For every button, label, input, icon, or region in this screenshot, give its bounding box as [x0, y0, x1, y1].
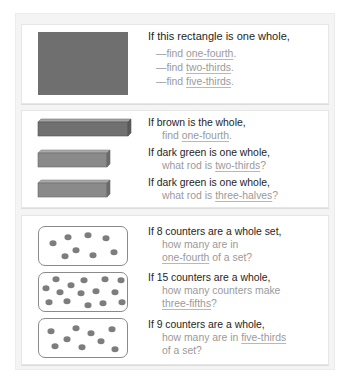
counters-row3-line2: of a set?	[148, 344, 202, 357]
term-five-thirds: five-thirds	[241, 332, 286, 343]
counter-dot	[88, 330, 95, 336]
term-two-thirds: two-thirds	[215, 160, 260, 171]
question-punct: .	[229, 130, 232, 141]
question-punct: ?	[272, 190, 278, 201]
counter-dot	[62, 253, 69, 259]
counter-dot	[78, 290, 85, 296]
counter-dot	[112, 346, 119, 352]
counter-dot	[68, 282, 75, 288]
counter-dot	[53, 276, 60, 282]
counter-dot	[65, 234, 72, 240]
question-tail: of a set?	[209, 252, 252, 263]
counter-dot	[43, 285, 50, 291]
term-one-fourth: one-fourth	[182, 130, 229, 141]
counter-dot	[52, 343, 59, 349]
counter-dot	[50, 240, 57, 246]
counter-dot	[46, 299, 53, 305]
term-three-halves: three-halves	[215, 190, 272, 201]
item-suffix: .	[233, 48, 236, 59]
term-three-fifths: three-fifths	[162, 298, 211, 309]
rods-row2-prompt: If dark green is one whole,	[148, 146, 270, 159]
counter-dot	[64, 298, 71, 304]
term-one-fourth: one-fourth	[162, 252, 209, 263]
counter-dot	[102, 276, 109, 282]
counters-row3-line1: how many are in five-thirds	[148, 331, 286, 344]
item-suffix: .	[231, 62, 234, 73]
counter-dot	[109, 326, 116, 332]
counter-dot	[85, 302, 92, 308]
brown-rod-shape	[36, 118, 132, 138]
counter-dot	[90, 252, 97, 258]
counter-dot	[111, 249, 118, 255]
panel1-item-1: —find one-fourth.	[156, 47, 236, 60]
counter-dot	[93, 288, 100, 294]
term-two-thirds: two-thirds	[186, 62, 231, 73]
panel1-item-2: —find two-thirds.	[156, 61, 234, 74]
counters-row2-prompt: If 15 counters are a whole,	[148, 271, 270, 284]
counters-row2-line2: three-fifths?	[148, 297, 217, 310]
item-prefix: —find	[156, 62, 186, 73]
counter-dot	[79, 344, 86, 350]
counter-dot	[57, 289, 64, 295]
question-text: what rod is	[162, 190, 215, 201]
rods-row1-question: find one-fourth.	[148, 129, 232, 142]
question-tail: ?	[211, 298, 217, 309]
gray-rectangle-shape	[38, 32, 128, 95]
counters-row3-prompt: If 9 counters are a whole,	[148, 318, 265, 331]
dark-green-rod-shape	[36, 179, 112, 199]
question-text: find	[162, 130, 182, 141]
item-suffix: .	[231, 76, 234, 87]
counter-dot	[64, 336, 71, 342]
dark-green-rod-shape	[36, 149, 112, 169]
counter-dot	[81, 277, 88, 283]
counter-dot	[98, 338, 105, 344]
counters-row1-prompt: If 8 counters are a whole set,	[148, 225, 281, 238]
rods-row3-question: what rod is three-halves?	[148, 189, 278, 202]
question-text: how many are in	[162, 332, 241, 343]
counter-dot	[118, 277, 125, 283]
counter-set-15	[38, 272, 128, 312]
question-text: what rod is	[162, 160, 215, 171]
rods-row2-question: what rod is two-thirds?	[148, 159, 266, 172]
counters-row1-line2: one-fourth of a set?	[148, 251, 252, 264]
counter-dot	[100, 300, 107, 306]
counters-row1-line1: how many are in	[148, 238, 238, 251]
term-one-fourth: one-fourth	[186, 48, 233, 59]
counter-dot	[73, 325, 80, 331]
counters-row2-line1: how many counters make	[148, 284, 280, 297]
counter-set-8	[38, 226, 128, 266]
item-prefix: —find	[156, 48, 186, 59]
panel1-prompt: If this rectangle is one whole,	[148, 30, 290, 43]
counter-dot	[73, 247, 80, 253]
counter-dot	[112, 289, 119, 295]
panel1-item-3: —find five-thirds.	[156, 75, 234, 88]
term-five-thirds: five-thirds	[186, 76, 231, 87]
counter-set-9	[38, 318, 128, 358]
counter-dot	[103, 235, 110, 241]
rods-row3-prompt: If dark green is one whole,	[148, 176, 270, 189]
counter-dot	[48, 328, 55, 334]
item-prefix: —find	[156, 76, 186, 87]
question-punct: ?	[260, 160, 266, 171]
counter-dot	[119, 299, 126, 305]
rods-row1-prompt: If brown is the whole,	[148, 116, 246, 129]
counter-dot	[85, 232, 92, 238]
